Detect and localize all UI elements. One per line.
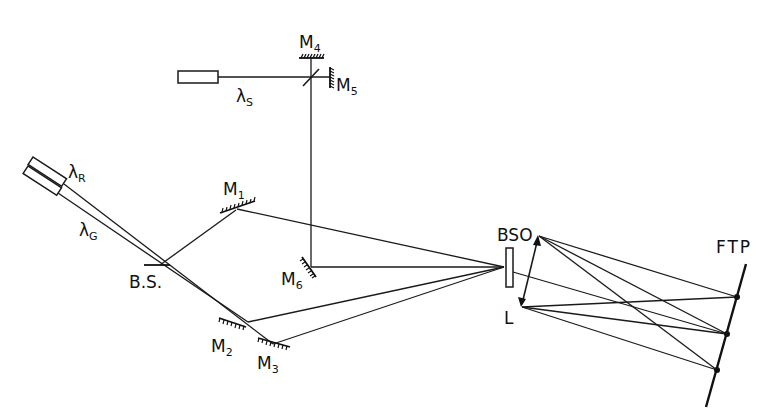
label-lambda-s: λS [236, 86, 253, 109]
beam-bs-to-m1 [160, 210, 236, 265]
label-lambda-g: λG [79, 220, 98, 243]
laser-lambda-s [178, 71, 218, 83]
label-lambda-r: λR [68, 162, 86, 185]
rays-lens-bottom [522, 297, 737, 370]
beam-lambda-g [58, 193, 248, 322]
ftp-point-1 [734, 294, 740, 300]
ftp-point-2 [724, 331, 730, 337]
optical-diagram: M4 M5 λS λR λG M1 B.S. M6 M2 M3 BSO L FT… [0, 0, 772, 417]
label-m1: M1 [223, 179, 245, 202]
label-m2: M2 [211, 336, 233, 359]
lens-l [518, 235, 541, 307]
rays-lens-top [539, 236, 737, 370]
bso-crystal [506, 248, 513, 287]
label-m3: M3 [257, 353, 279, 376]
label-lens: L [504, 308, 514, 328]
beam-lambda-r [64, 184, 273, 344]
label-m6: M6 [281, 269, 303, 292]
mirror-m5 [330, 67, 334, 88]
label-beam-splitter: B.S. [129, 272, 162, 292]
ftp-point-3 [714, 367, 720, 373]
label-bso: BSO [497, 225, 533, 245]
label-m4: M4 [299, 32, 321, 55]
label-ftp: FTP [716, 237, 752, 257]
beam-m3-to-bso [273, 267, 504, 344]
label-m5: M5 [336, 75, 358, 98]
beam-m1-to-bso [237, 209, 504, 267]
